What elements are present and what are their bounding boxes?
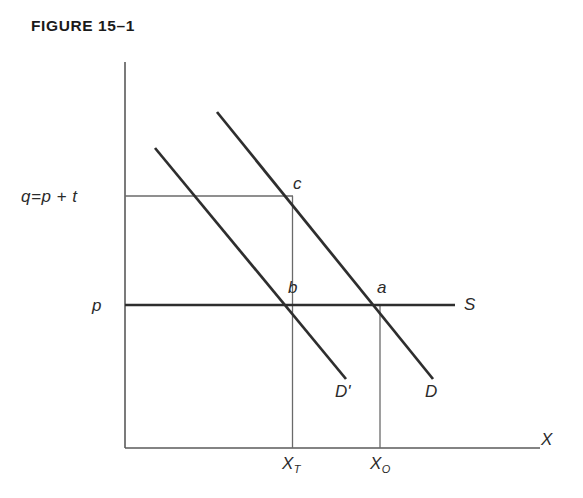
x-tick-label-xo: XO	[370, 455, 390, 472]
supply-curve-label: S	[464, 296, 475, 313]
x-tick-sub-xo: O	[382, 463, 391, 475]
demand-shifted-curve-label: D'	[335, 383, 351, 400]
plot-area	[0, 0, 583, 498]
y-axis-label-price: p	[92, 297, 101, 314]
x-tick-base-xo: X	[370, 454, 381, 473]
x-tick-label-xt: XT	[282, 455, 300, 472]
point-c-label: c	[293, 175, 302, 192]
x-axis-label: X	[541, 431, 552, 448]
figure-container: FIGURE 15–1 q=p + t p X S D D' a b c XT …	[0, 0, 583, 498]
demand-curve-shifted	[155, 148, 346, 379]
x-tick-sub-xt: T	[294, 463, 301, 475]
x-tick-base-xt: X	[282, 454, 293, 473]
demand-curve-original	[217, 112, 433, 379]
point-b-label: b	[288, 279, 297, 296]
demand-curve-label: D	[425, 383, 437, 400]
point-a-label: a	[377, 279, 386, 296]
y-axis-label-price-with-tax: q=p + t	[21, 188, 77, 205]
